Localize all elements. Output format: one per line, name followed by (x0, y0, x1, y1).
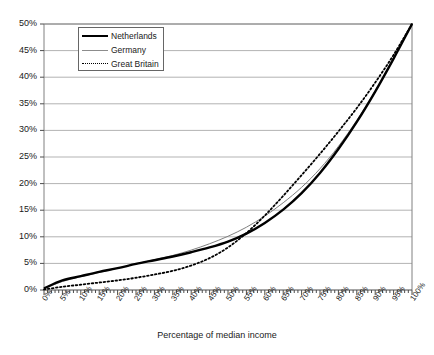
y-tick-label: 35% (0, 99, 37, 108)
y-tick-label: 10% (0, 232, 37, 241)
legend-item-germany: Germany (79, 43, 165, 57)
y-tick-label: 45% (0, 46, 37, 55)
y-tick-label: 15% (0, 205, 37, 214)
y-tick-label: 20% (0, 179, 37, 188)
legend-swatch-great-britain (82, 59, 108, 69)
legend-item-netherlands: Netherlands (79, 29, 165, 43)
y-tick-label: 40% (0, 72, 37, 81)
y-tick-label: 5% (0, 258, 37, 267)
legend-swatch-germany (82, 45, 108, 55)
chart-container: 0%5%10%15%20%25%30%35%40%45%50% 0%5%10%1… (0, 0, 434, 355)
y-tick-label: 50% (0, 19, 37, 28)
y-axis-ticks (40, 24, 44, 290)
y-tick-label: 30% (0, 125, 37, 134)
legend-label-germany: Germany (111, 45, 146, 55)
y-tick-label: 0% (0, 285, 37, 294)
x-axis-title: Percentage of median income (0, 330, 434, 340)
legend-swatch-netherlands (82, 31, 108, 41)
y-tick-label: 25% (0, 152, 37, 161)
legend-item-great-britain: Great Britain (79, 57, 165, 71)
chart-legend: Netherlands Germany Great Britain (78, 27, 164, 71)
legend-label-netherlands: Netherlands (111, 31, 157, 41)
legend-label-great-britain: Great Britain (111, 59, 159, 69)
